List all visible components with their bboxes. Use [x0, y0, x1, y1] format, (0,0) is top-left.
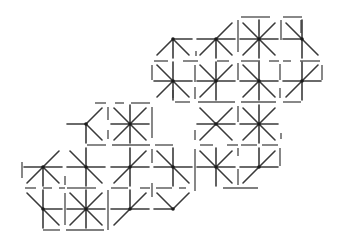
puzzle-board[interactable]: [0, 0, 345, 250]
hub-dot-icon: [84, 165, 88, 169]
hub-dot-icon: [128, 207, 132, 211]
puzzle-cell-r2c5[interactable]: [238, 103, 280, 145]
hub-dot-icon: [171, 37, 175, 41]
hub-dot-icon: [257, 79, 261, 83]
puzzle-cell-r3c0[interactable]: [22, 146, 64, 188]
hub-dot-icon: [41, 207, 45, 211]
hub-dot-icon: [171, 207, 175, 211]
hub-dot-icon: [257, 122, 261, 126]
hub-dot-icon: [214, 122, 218, 126]
puzzle-cell-r1c3[interactable]: [152, 60, 194, 102]
hub-dot-icon: [128, 122, 132, 126]
puzzle-cell-r3c2[interactable]: [109, 146, 151, 188]
hub-dot-icon: [128, 165, 132, 169]
puzzle-cell-r3c3[interactable]: [152, 146, 194, 188]
hub-dot-icon: [257, 165, 261, 169]
puzzle-cell-r0c5[interactable]: [238, 18, 280, 60]
hub-dot-icon: [214, 165, 218, 169]
hub-dot-icon: [214, 79, 218, 83]
puzzle-cells: [22, 18, 323, 230]
puzzle-cell-r0c3[interactable]: [152, 18, 194, 60]
hub-dot-icon: [300, 79, 304, 83]
hub-dot-icon: [214, 37, 218, 41]
hub-dot-icon: [171, 165, 175, 169]
hub-dot-icon: [41, 165, 45, 169]
puzzle-cell-r4c0[interactable]: [22, 188, 64, 230]
hub-dot-icon: [84, 122, 88, 126]
puzzle-cell-r2c2[interactable]: [109, 103, 151, 145]
hub-dot-icon: [84, 207, 88, 211]
puzzle-cell-r1c4[interactable]: [195, 60, 237, 102]
puzzle-cell-r3c1[interactable]: [65, 146, 107, 188]
puzzle-cell-r3c5[interactable]: [238, 146, 280, 188]
puzzle-cell-r2c4[interactable]: [195, 103, 237, 145]
puzzle-cell-r3c4[interactable]: [195, 146, 237, 188]
hub-dot-icon: [257, 37, 261, 41]
puzzle-cell-r4c2[interactable]: [109, 188, 151, 230]
puzzle-cell-r0c6[interactable]: [281, 18, 323, 60]
hub-dot-icon: [300, 37, 304, 41]
hub-dot-icon: [171, 79, 175, 83]
puzzle-cell-r1c6[interactable]: [281, 60, 323, 102]
puzzle-cell-r0c4[interactable]: [195, 18, 237, 60]
puzzle-cell-r2c1[interactable]: [65, 103, 107, 145]
puzzle-cell-r1c5[interactable]: [238, 60, 280, 102]
puzzle-cell-r4c1[interactable]: [65, 188, 107, 230]
puzzle-cell-r4c3[interactable]: [152, 188, 194, 230]
